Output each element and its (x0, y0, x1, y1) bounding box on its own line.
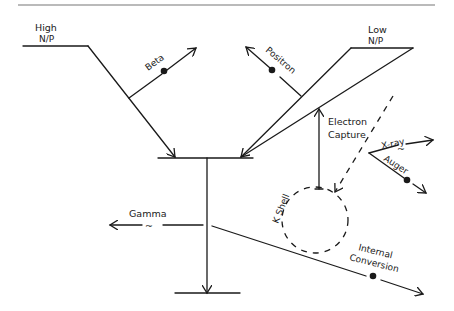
low-np-level: Low N/P (241, 24, 413, 157)
gamma-photon-icon: ~ (145, 220, 153, 231)
electron-capture: Electron Capture (315, 109, 367, 189)
xray-auger: ~ X-ray Auger (369, 136, 433, 193)
low-np-label: N/P (368, 36, 384, 46)
k-shell-label: K Shell (271, 193, 292, 225)
high-np-label: N/P (39, 34, 55, 44)
decay-diagram: High N/P Beta Low N/P Positron Electron … (0, 0, 454, 311)
positron-particle-icon (269, 67, 276, 74)
low-label: Low (368, 24, 387, 35)
internal-conversion: Internal Conversion (212, 226, 423, 294)
electron-capture-label-1: Electron (328, 116, 367, 127)
high-label: High (35, 22, 57, 33)
k-shell: K Shell (271, 187, 348, 253)
positron-label: Positron (264, 45, 298, 76)
k-shell-orbit (282, 187, 348, 253)
auger-particle-icon (404, 177, 411, 184)
gamma-emission: ~ Gamma (110, 208, 203, 231)
gamma-label: Gamma (129, 208, 167, 219)
positron-emission: Positron (246, 45, 301, 96)
electron-capture-label-2: Capture (328, 129, 366, 140)
conversion-electron-icon (370, 273, 377, 280)
beta-particle-icon (161, 68, 168, 75)
beta-emission: Beta (129, 48, 196, 98)
high-np-level: High N/P (23, 22, 175, 157)
